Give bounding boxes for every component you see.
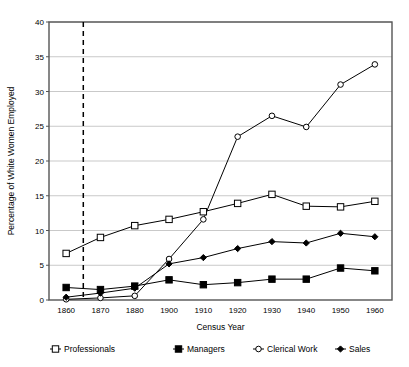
x-tick-label-1900: 1900 bbox=[160, 306, 178, 315]
datapoint-clerical-work-1950 bbox=[338, 82, 344, 88]
x-axis-title: Census Year bbox=[196, 322, 244, 332]
datapoint-clerical-work-1920 bbox=[235, 134, 241, 140]
y-tick-label-40: 40 bbox=[35, 18, 44, 27]
datapoint-professionals-1950 bbox=[337, 204, 343, 210]
x-tick-label-1960: 1960 bbox=[366, 306, 384, 315]
datapoint-managers-1950 bbox=[337, 265, 343, 271]
datapoint-managers-1860 bbox=[63, 284, 69, 290]
datapoint-professionals-1910 bbox=[200, 209, 206, 215]
legend-label-sales[interactable]: Sales bbox=[349, 344, 370, 354]
x-tick-label-1940: 1940 bbox=[297, 306, 315, 315]
datapoint-professionals-1860 bbox=[63, 250, 69, 256]
legend-label-clerical-work[interactable]: Clerical Work bbox=[267, 344, 318, 354]
x-tick-label-1910: 1910 bbox=[194, 306, 212, 315]
legend-label-managers[interactable]: Managers bbox=[187, 344, 225, 354]
legend-label-professionals[interactable]: Professionals bbox=[64, 344, 115, 354]
y-tick-label-0: 0 bbox=[40, 296, 45, 305]
chart-container: 0510152025303540186018701880190019101920… bbox=[0, 0, 409, 367]
x-tick-label-1870: 1870 bbox=[92, 306, 110, 315]
y-tick-label-15: 15 bbox=[35, 192, 44, 201]
y-tick-label-30: 30 bbox=[35, 88, 44, 97]
x-tick-label-1920: 1920 bbox=[229, 306, 247, 315]
datapoint-professionals-1930 bbox=[269, 191, 275, 197]
legend-marker-filled-diamond bbox=[337, 346, 343, 352]
datapoint-managers-1930 bbox=[269, 276, 275, 282]
datapoint-professionals-1870 bbox=[97, 234, 103, 240]
y-tick-label-20: 20 bbox=[35, 157, 44, 166]
line-chart: 0510152025303540186018701880190019101920… bbox=[0, 0, 409, 367]
y-axis-title: Percentage of White Women Employed bbox=[6, 86, 16, 235]
datapoint-managers-1900 bbox=[166, 277, 172, 283]
y-tick-label-25: 25 bbox=[35, 122, 44, 131]
x-tick-label-1860: 1860 bbox=[57, 306, 75, 315]
x-tick-label-1950: 1950 bbox=[332, 306, 350, 315]
legend-marker-open-circle bbox=[256, 346, 262, 352]
x-tick-label-1880: 1880 bbox=[126, 306, 144, 315]
datapoint-professionals-1920 bbox=[234, 200, 240, 206]
y-tick-label-5: 5 bbox=[40, 261, 45, 270]
legend-marker-open-square bbox=[52, 346, 58, 352]
datapoint-professionals-1960 bbox=[372, 198, 378, 204]
datapoint-managers-1910 bbox=[200, 282, 206, 288]
y-tick-label-35: 35 bbox=[35, 53, 44, 62]
datapoint-managers-1960 bbox=[372, 268, 378, 274]
datapoint-clerical-work-1960 bbox=[372, 62, 378, 68]
datapoint-managers-1920 bbox=[234, 279, 240, 285]
datapoint-professionals-1880 bbox=[132, 222, 138, 228]
datapoint-clerical-work-1910 bbox=[201, 217, 207, 223]
y-tick-label-10: 10 bbox=[35, 227, 44, 236]
datapoint-professionals-1900 bbox=[166, 216, 172, 222]
legend-marker-filled-square bbox=[175, 346, 181, 352]
x-tick-label-1930: 1930 bbox=[263, 306, 281, 315]
datapoint-clerical-work-1940 bbox=[303, 124, 309, 130]
datapoint-clerical-work-1880 bbox=[132, 293, 138, 299]
datapoint-professionals-1940 bbox=[303, 203, 309, 209]
datapoint-managers-1940 bbox=[303, 276, 309, 282]
datapoint-clerical-work-1930 bbox=[269, 113, 275, 119]
